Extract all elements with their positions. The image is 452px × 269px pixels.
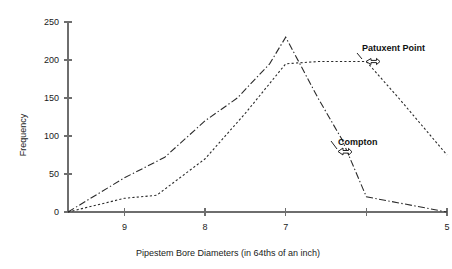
- series-line-patuxent: [68, 62, 447, 212]
- x-tick-label: 5: [444, 222, 449, 232]
- y-tick-label: 200: [44, 55, 59, 65]
- chart-container: 050100150200250 9875 Patuxent Point Comp…: [0, 0, 452, 269]
- series-line-compton: [68, 37, 447, 212]
- y-tick-label: 0: [54, 207, 59, 217]
- y-axis-tick-labels: 050100150200250: [44, 17, 59, 217]
- y-tick-label: 50: [49, 169, 59, 179]
- x-axis-tick-labels: 9875: [122, 222, 450, 232]
- x-tick-label: 8: [203, 222, 208, 232]
- patuxent-callout-arrow-icon: [357, 53, 380, 65]
- y-tick-label: 250: [44, 17, 59, 27]
- x-tick-label: 9: [122, 222, 127, 232]
- frequency-line-chart: 050100150200250 9875 Patuxent Point Comp…: [0, 0, 452, 269]
- x-tick-label: 7: [283, 222, 288, 232]
- y-axis-title: Frequency: [18, 113, 28, 156]
- series-label-patuxent: Patuxent Point: [362, 43, 425, 53]
- series-label-compton: Compton: [338, 137, 378, 147]
- x-axis-title: Pipestem Bore Diameters (in 64ths of an …: [136, 248, 320, 258]
- y-tick-label: 150: [44, 93, 59, 103]
- y-tick-label: 100: [44, 131, 59, 141]
